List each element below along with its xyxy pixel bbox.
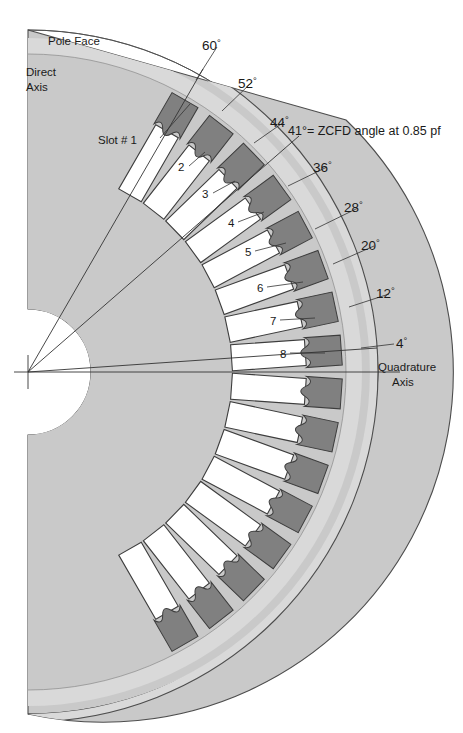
- zcfd-angle-note: 41°= ZCFD angle at 0.85 pf: [288, 124, 441, 138]
- direct-axis-label-line2: Axis: [26, 81, 48, 93]
- slot-number-6: 6: [257, 282, 263, 294]
- slot-number-2: 2: [178, 161, 184, 173]
- pole-face-label: Pole Face: [48, 35, 100, 47]
- pole-face-diagram: Pole Face Direct Axis Quadrature Axis Sl…: [0, 0, 463, 733]
- slot-one-label: Slot # 1: [98, 134, 137, 146]
- slot-number-7: 7: [270, 315, 276, 327]
- quadrature-axis-label-line1: Quadrature: [378, 361, 436, 373]
- angle-label-52: 52°: [238, 75, 257, 91]
- direct-axis-label-line1: Direct: [26, 66, 57, 78]
- slot-number-5: 5: [245, 246, 251, 258]
- slot-number-8: 8: [280, 348, 286, 360]
- slot-number-4: 4: [228, 217, 235, 229]
- quadrature-axis-label-line2: Axis: [392, 376, 414, 388]
- slot-number-3: 3: [202, 188, 208, 200]
- angle-label-60: 60°: [202, 37, 221, 53]
- diagram-canvas: Pole Face Direct Axis Quadrature Axis Sl…: [0, 0, 463, 733]
